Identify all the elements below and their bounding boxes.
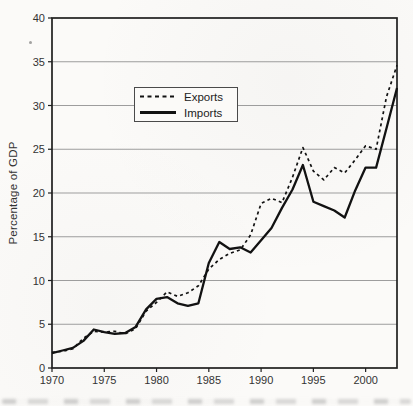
legend-label-imports: Imports — [184, 107, 222, 119]
y-tick-label-15: 15 — [33, 231, 45, 243]
y-tick-label-30: 30 — [33, 100, 45, 112]
legend-item-exports: Exports — [139, 89, 233, 104]
x-tick-label-1970: 1970 — [40, 374, 64, 386]
imports-line — [52, 88, 397, 353]
y-tick-label-40: 40 — [33, 12, 45, 24]
y-tick-label-0: 0 — [39, 362, 45, 374]
x-tick-label-1985: 1985 — [197, 374, 221, 386]
y-tick-label-25: 25 — [33, 143, 45, 155]
y-tick-label-10: 10 — [33, 275, 45, 287]
y-tick-label-20: 20 — [33, 187, 45, 199]
y-tick-label-35: 35 — [33, 56, 45, 68]
x-tick-label-1995: 1995 — [301, 374, 325, 386]
y-tick-label-5: 5 — [39, 318, 45, 330]
legend-label-exports: Exports — [184, 91, 223, 103]
imports-line-sample — [139, 110, 177, 115]
x-tick-label-1980: 1980 — [144, 374, 168, 386]
x-tick-label-1975: 1975 — [92, 374, 116, 386]
scan-speck-artifact — [29, 41, 32, 44]
chart-canvas: 0510152025303540197019751980198519901995… — [0, 0, 413, 406]
x-tick-label-2000: 2000 — [353, 374, 377, 386]
exports-line-sample — [139, 94, 177, 99]
legend: Exports Imports — [134, 87, 238, 122]
legend-item-imports: Imports — [139, 105, 233, 120]
cutoff-text-artifact — [2, 399, 411, 404]
figure: Percentage of GDP 0510152025303540197019… — [0, 0, 413, 406]
x-tick-label-1990: 1990 — [249, 374, 273, 386]
